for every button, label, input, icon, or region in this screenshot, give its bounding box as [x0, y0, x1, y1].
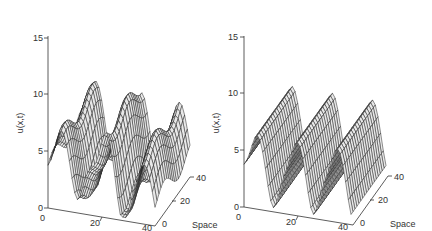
- depth-tick-40: 40: [394, 173, 404, 182]
- depth-tick-40: 40: [196, 174, 206, 183]
- z-tick-15: 15: [33, 34, 43, 43]
- surface-plot-periodic: 15 10 5 0 u(x,t) 0 20 40 0 20 40 Space: [216, 0, 432, 231]
- z-tick-5: 5: [38, 147, 43, 156]
- z-axis-label: u(x,t): [211, 113, 221, 134]
- z-tick-0: 0: [38, 204, 43, 213]
- surface-plot-irregular: 15 10 5 0 u(x,t) 0 20 40 0 20 40 Space: [0, 0, 216, 231]
- z-tick-10: 10: [228, 89, 238, 98]
- depth-tick-20: 20: [180, 197, 190, 206]
- depth-axis-label: Space: [390, 220, 416, 229]
- z-axis-label: u(x,t): [15, 113, 25, 134]
- depth-tick-20: 20: [378, 196, 388, 205]
- depth-tick-0: 0: [162, 220, 167, 229]
- z-tick-5: 5: [234, 146, 239, 155]
- surface-plot-canvas: [216, 0, 432, 231]
- depth-axis-label: Space: [192, 221, 218, 230]
- x-tick-40: 40: [338, 223, 348, 231]
- depth-tick-0: 0: [360, 219, 365, 228]
- z-tick-0: 0: [234, 203, 239, 212]
- x-tick-0: 0: [40, 214, 45, 223]
- x-tick-0: 0: [236, 213, 241, 222]
- x-tick-20: 20: [90, 219, 100, 228]
- z-tick-15: 15: [228, 33, 238, 42]
- x-tick-40: 40: [142, 224, 152, 231]
- z-tick-10: 10: [33, 90, 43, 99]
- x-tick-20: 20: [286, 218, 296, 227]
